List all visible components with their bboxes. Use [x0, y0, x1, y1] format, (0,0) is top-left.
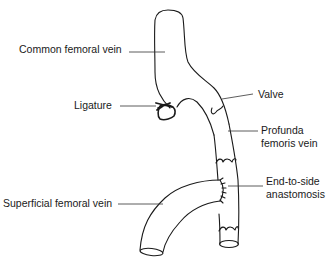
- profunda-right-wall: [229, 124, 239, 244]
- label-anastomosis-line2: anastomosis: [266, 188, 325, 200]
- label-ligature: Ligature: [74, 99, 112, 111]
- superficial-femoral-upper-wall: [140, 180, 220, 250]
- label-profunda-line1: Profunda: [261, 124, 304, 136]
- label-anastomosis-line1: End-to-side: [266, 175, 320, 187]
- superficial-femoral-lower-wall: [163, 201, 220, 252]
- label-profunda-line2: femoris vein: [261, 137, 318, 149]
- common-femoral-inner-wall: [177, 99, 214, 135]
- label-superficial-femoral-vein: Superficial femoral vein: [3, 197, 112, 209]
- label-common-femoral-vein: Common femoral vein: [19, 43, 122, 55]
- superficial-femoral-opening: [140, 247, 164, 256]
- leader-valve: [222, 94, 253, 99]
- profunda-opening: [220, 241, 239, 248]
- profunda-left-wall: [214, 135, 220, 244]
- valve-upper: [211, 106, 223, 114]
- label-valve: Valve: [258, 88, 284, 100]
- valve-mid: [216, 159, 236, 163]
- valve-lower: [219, 227, 238, 231]
- common-femoral-vein-outline: [155, 10, 229, 124]
- anastomosis-suture: [220, 178, 226, 203]
